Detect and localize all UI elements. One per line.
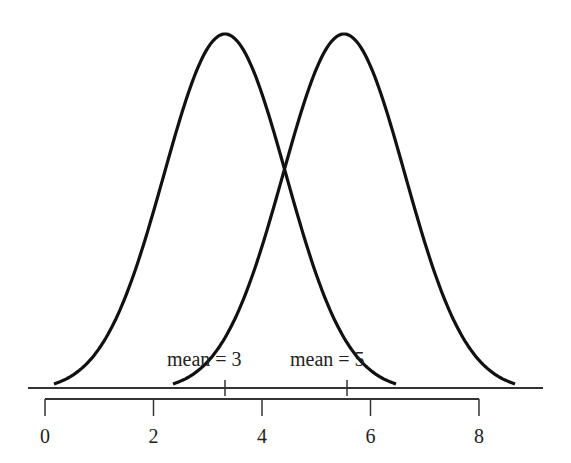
curve-mean-3 [54,34,396,384]
x-tick-label: 0 [40,425,50,447]
x-tick-label: 6 [366,425,376,447]
x-axis-ticks: 02468 [40,399,484,447]
mean-5-label: mean = 5 [290,348,365,370]
x-tick-label: 8 [474,425,484,447]
x-tick-label: 2 [149,425,159,447]
x-tick-label: 4 [257,425,267,447]
normal-curves-diagram: mean = 3 mean = 5 02468 [0,0,571,463]
mean-3-label: mean = 3 [167,348,242,370]
curve-mean-5 [173,34,515,384]
